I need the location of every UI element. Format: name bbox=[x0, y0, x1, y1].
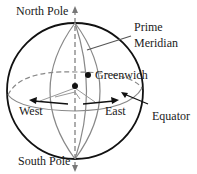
earth-center-point bbox=[72, 83, 78, 89]
greenwich-point bbox=[85, 72, 91, 78]
west-arrowhead-icon bbox=[29, 97, 37, 104]
globe-diagram: North Pole Prime Meridian Greenwich West… bbox=[0, 0, 197, 174]
south-pole-label: South Pole bbox=[18, 154, 70, 168]
meridian-left bbox=[50, 23, 75, 159]
prime-meridian-label-line2: Meridian bbox=[134, 36, 178, 50]
east-arrowhead-icon bbox=[111, 97, 119, 104]
prime-meridian-label-line1: Prime bbox=[134, 20, 163, 34]
south-arrowhead-icon bbox=[72, 165, 78, 172]
north-arrowhead-icon bbox=[72, 6, 78, 13]
east-label: East bbox=[105, 104, 126, 118]
equator-label: Equator bbox=[152, 109, 190, 123]
greenwich-label: Greenwich bbox=[95, 68, 148, 82]
west-label: West bbox=[19, 104, 43, 118]
north-pole-label: North Pole bbox=[16, 4, 68, 18]
prime-meridian bbox=[75, 23, 87, 159]
